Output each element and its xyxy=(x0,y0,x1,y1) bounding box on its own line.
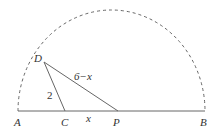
semicircle-diagram: D A C P B 2 6−x x xyxy=(0,0,217,139)
label-d: D xyxy=(33,52,42,64)
label-p: P xyxy=(112,116,120,128)
label-dp-length: 6−x xyxy=(74,70,92,82)
label-cp-length: x xyxy=(85,112,91,124)
label-b: B xyxy=(200,116,207,128)
label-a: A xyxy=(13,116,21,128)
label-c: C xyxy=(61,116,69,128)
label-dc-length: 2 xyxy=(47,89,53,101)
